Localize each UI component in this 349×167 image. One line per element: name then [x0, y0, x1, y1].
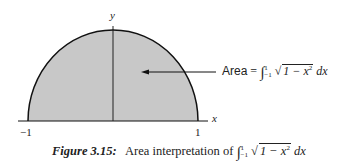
integrand: 1 − x	[283, 64, 308, 78]
figure-number: Figure 3.15:	[52, 144, 117, 158]
radical-icon: √	[275, 64, 282, 78]
differential: dx	[316, 64, 327, 78]
caption-exponent: 2	[286, 144, 290, 152]
x-axis-label: x	[212, 113, 217, 124]
exponent: 2	[309, 64, 313, 72]
tick-label-one: 1	[195, 127, 201, 138]
caption-radical-icon: √	[251, 144, 258, 158]
caption-text: Area interpretation of	[125, 144, 233, 158]
figure-caption: Figure 3.15: Area interpretation of ∫1−1…	[52, 142, 306, 159]
caption-lower-limit: −1	[241, 152, 248, 159]
y-axis-label: y	[110, 10, 115, 21]
integral-sign-icon: ∫	[260, 65, 264, 80]
caption-differential: dx	[294, 144, 306, 158]
caption-integrand: 1 − x	[260, 144, 286, 158]
area-word: Area	[222, 64, 247, 78]
equals-sign: =	[250, 64, 257, 78]
area-annotation: Area = ∫1−1√1 − x2 dx	[222, 63, 328, 79]
lower-limit: −1	[264, 72, 271, 79]
caption-integral-sign-icon: ∫	[236, 144, 240, 161]
tick-label-minus-one: −1	[20, 127, 32, 138]
